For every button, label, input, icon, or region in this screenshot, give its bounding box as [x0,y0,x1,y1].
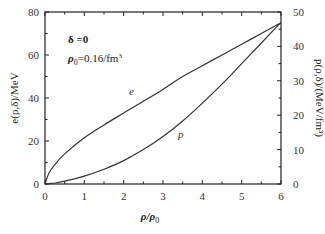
y-right-tick-label: 20 [293,109,305,121]
curves [45,22,281,184]
y-right-tick-label: 50 [293,6,305,18]
y-left-tick-label: 0 [34,178,40,190]
y-right-tick-label: 40 [293,40,305,52]
annotation-delta: δ =0 [68,33,89,45]
x-axis-label: ρ/ρ0 [140,210,159,225]
y-right-tick-label: 0 [293,178,299,190]
y-axis-left-label: e(ρ,δ)/MeV [8,72,21,123]
x-tick-label: 2 [121,190,127,202]
x-tick-label: 0 [42,190,48,202]
y-right-tick-label: 30 [293,75,305,87]
y-right-tick-label: 10 [293,144,305,156]
annotation-rho0: ρ0=0.16/fm3 [67,52,122,67]
curve-label-p: p [177,128,184,140]
y-left-tick-label: 40 [28,92,40,104]
chart: 012345602040608001020304050 δ =0 ρ0=0.16… [0,0,325,234]
y-left-tick-label: 60 [28,49,40,61]
y-left-tick-label: 80 [28,6,40,18]
x-tick-label: 5 [239,190,245,202]
y-axis-right-label: p(ρ,δ)/(MeV/fm³) [313,59,325,137]
x-tick-label: 6 [278,190,284,202]
y-left-tick-label: 20 [28,135,40,147]
x-tick-label: 4 [200,190,206,202]
x-tick-label: 3 [160,190,166,202]
x-tick-label: 1 [82,190,88,202]
series-e-line [45,23,281,184]
series-p-line [45,22,281,184]
curve-label-e: e [129,85,134,97]
